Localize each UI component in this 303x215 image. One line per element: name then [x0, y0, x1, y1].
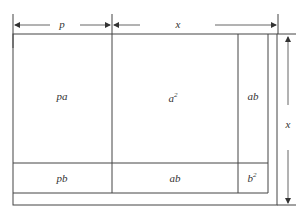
region-a-squared: a2 [169, 91, 179, 104]
area-diagram: p x pa a2 ab pb ab b2 x [0, 0, 303, 215]
dimension-label-p: p [58, 18, 65, 30]
region-b-squared: b2 [248, 171, 258, 184]
region-pa: pa [56, 90, 69, 102]
dimension-label-x-top: x [175, 18, 181, 30]
region-pb: pb [56, 172, 69, 184]
region-ab-right: ab [248, 90, 260, 102]
outer-square [13, 34, 277, 205]
region-ab-bottom: ab [170, 172, 182, 184]
dimension-label-x-right: x [285, 118, 291, 130]
